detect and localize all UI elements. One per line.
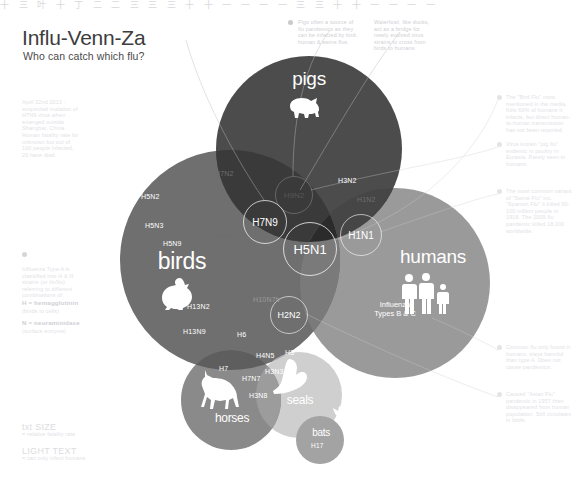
strain-h10n7: H10N7 — [212, 232, 235, 239]
label-horses: horses — [186, 411, 278, 425]
strain-h7n9[interactable]: H7N9 — [243, 200, 287, 244]
strain-h7n3: H7N3 — [336, 293, 355, 300]
strain-h4n5: H4N5 — [256, 352, 275, 359]
bat-icon — [330, 403, 362, 421]
strain-h3n3: H3N3 — [265, 368, 284, 375]
strain-h6: H6 — [237, 331, 246, 338]
strain-h13n9: H13N9 — [183, 328, 206, 335]
strain-h7n7: H7N7 — [242, 375, 261, 382]
strain-h1n1[interactable]: H1N1 — [340, 214, 382, 256]
strain-h5n3: H5N3 — [145, 222, 164, 229]
strain-h5n2: H5N2 — [141, 193, 160, 200]
strain-h3n8: H3N8 — [249, 392, 268, 399]
influenza-types-bc-note: InfluenzaTypes B & C — [358, 300, 432, 318]
pig-icon — [286, 92, 334, 118]
label-birds: birds — [127, 248, 237, 275]
horse-icon — [196, 367, 246, 409]
strain-h13n2: H13N2 — [187, 303, 210, 310]
label-humans: humans — [379, 246, 487, 268]
strain-h5n1[interactable]: H5N1 — [283, 222, 337, 276]
venn-circle-bats[interactable] — [296, 416, 344, 464]
strain-h3n2: H3N2 — [338, 177, 357, 184]
label-pigs: pigs — [256, 68, 362, 90]
label-bats: bats — [298, 427, 344, 438]
venn-diagram: pigs birds humans horses seals bats H9N2… — [0, 0, 580, 480]
strain-h5n9: H5N9 — [163, 240, 182, 247]
strain-h3: H3 — [285, 349, 294, 356]
strain-h17: H17 — [311, 442, 324, 449]
strain-h1n2: H1N2 — [357, 196, 376, 203]
strain-h7n2: H7N2 — [215, 170, 234, 177]
infographic-canvas: 十 三 叶 十 丁 二 二 三 三 三 十 十 一 一 一 一 三 三 十 十 … — [0, 0, 580, 480]
seal-icon — [272, 358, 312, 396]
strain-h7: H7 — [219, 365, 228, 372]
strain-h10n7-lower: H10N7b — [253, 296, 280, 303]
